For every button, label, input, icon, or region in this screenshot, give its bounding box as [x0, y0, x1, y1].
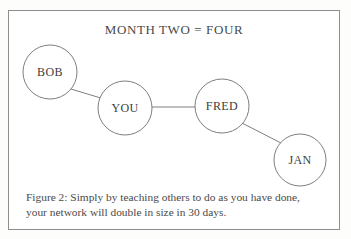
caption-line-2: your network will double in size in 30 d… — [26, 205, 326, 220]
node-label-jan: JAN — [288, 153, 311, 168]
figure-page: MONTH TWO = FOUR BOB YOU FRED JAN Figure… — [0, 0, 351, 239]
node-label-fred: FRED — [206, 99, 238, 114]
node-label-bob: BOB — [37, 65, 63, 80]
edge-fred-jan — [242, 123, 281, 143]
node-label-you: YOU — [111, 101, 138, 116]
caption-line-1: Figure 2: Simply by teaching others to d… — [26, 190, 326, 205]
edge-bob-you — [71, 89, 104, 99]
figure-caption: Figure 2: Simply by teaching others to d… — [26, 190, 326, 219]
